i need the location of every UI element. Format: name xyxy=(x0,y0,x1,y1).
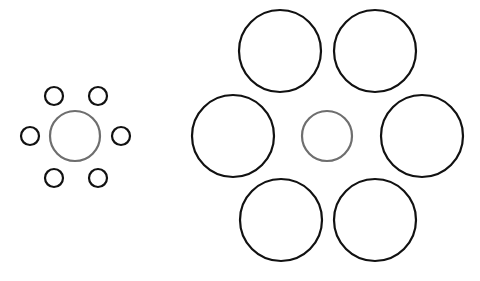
surround-circle xyxy=(334,179,416,261)
small-surround-group xyxy=(21,87,130,187)
surround-circle xyxy=(45,87,63,105)
surround-circle xyxy=(334,10,416,92)
large-surround-group xyxy=(192,10,463,261)
surround-circle xyxy=(240,179,322,261)
surround-circle xyxy=(89,169,107,187)
surround-circle xyxy=(381,95,463,177)
surround-circle xyxy=(89,87,107,105)
surround-circle xyxy=(45,169,63,187)
surround-circle xyxy=(112,127,130,145)
center-circle xyxy=(302,111,352,161)
surround-circle xyxy=(192,95,274,177)
ebbinghaus-diagram xyxy=(0,0,480,281)
surround-circle xyxy=(239,10,321,92)
surround-circle xyxy=(21,127,39,145)
center-circle xyxy=(50,111,100,161)
